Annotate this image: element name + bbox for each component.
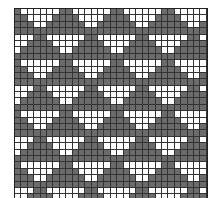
pattern-grid bbox=[14, 8, 208, 198]
pattern-cell bbox=[200, 194, 206, 198]
